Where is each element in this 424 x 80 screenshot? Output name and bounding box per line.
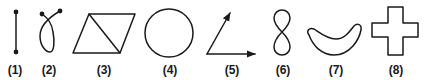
diagonal-line (89, 14, 120, 53)
endpoint-dot (14, 10, 19, 15)
figure-3-label: (3) (97, 63, 112, 77)
figures-diagram: (1) (2) (3) (4) (5) (6) (7) (8) (0, 0, 424, 80)
arrow-ray-up (207, 13, 230, 54)
figure-2-label: (2) (42, 63, 57, 77)
figure-7-label: (7) (329, 63, 344, 77)
endpoint-dot (14, 50, 19, 55)
figure-6-figure-eight: (6) (274, 10, 290, 77)
figure-3-parallelogram: (3) (73, 14, 135, 77)
figure-5-label: (5) (225, 63, 240, 77)
figure-1-label: (1) (8, 63, 23, 77)
figure-2-crossed-loop: (2) (40, 9, 63, 77)
figure-4-circle: (4) (145, 9, 193, 77)
figure-8-cross: (8) (372, 7, 418, 77)
figure-5-angle: (5) (207, 13, 255, 77)
figure-4-label: (4) (163, 63, 178, 77)
figure-1-line-segment: (1) (8, 10, 23, 77)
endpoint-dot (40, 12, 45, 17)
figure-6-label: (6) (276, 63, 291, 77)
figure-7-banana: (7) (308, 24, 361, 77)
endpoint-dot (58, 9, 63, 14)
figure-8-label: (8) (389, 63, 404, 77)
